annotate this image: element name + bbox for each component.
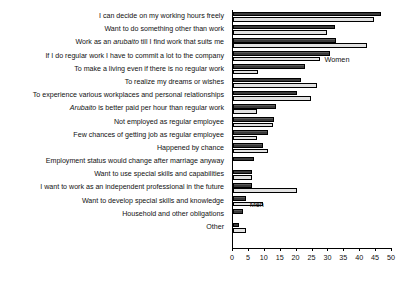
series-annotation-women: Women bbox=[324, 55, 349, 64]
bar-men bbox=[233, 143, 263, 148]
category-label: Arubaito is better paid per hour than re… bbox=[0, 102, 228, 115]
x-tick bbox=[248, 248, 249, 251]
bar-women bbox=[233, 123, 273, 128]
category-label: Other bbox=[0, 221, 228, 234]
category-label: Employment status would change after mar… bbox=[0, 155, 228, 168]
x-tick-label: 30 bbox=[323, 253, 331, 262]
bar-women bbox=[233, 96, 311, 101]
bar-group bbox=[232, 76, 391, 89]
foreign-term: Arubaito bbox=[70, 104, 96, 112]
bar-men bbox=[233, 117, 274, 122]
bar-group bbox=[232, 10, 391, 23]
bar-men bbox=[233, 157, 254, 162]
bar-group bbox=[232, 142, 391, 155]
x-tick bbox=[359, 248, 360, 251]
bar-men bbox=[233, 130, 268, 135]
x-tick bbox=[312, 248, 313, 251]
bar-group bbox=[232, 102, 391, 115]
x-tick-label: 45 bbox=[371, 253, 379, 262]
category-label: Want to use special skills and capabilit… bbox=[0, 168, 228, 181]
x-tick bbox=[343, 248, 344, 251]
category-label: Household and other obligations bbox=[0, 208, 228, 221]
bar-women bbox=[233, 70, 258, 75]
bar-men bbox=[233, 183, 252, 188]
bar-women bbox=[233, 136, 257, 141]
bar-group bbox=[232, 23, 391, 36]
x-tick-label: 15 bbox=[276, 253, 284, 262]
bar-women bbox=[233, 228, 246, 233]
bar-women bbox=[233, 149, 268, 154]
x-tick-label: 25 bbox=[308, 253, 316, 262]
x-tick-label: 10 bbox=[260, 253, 268, 262]
bar-men bbox=[233, 196, 246, 201]
category-label: Work as an arubaito till I find work tha… bbox=[0, 36, 228, 49]
bar-men bbox=[233, 170, 252, 175]
bar-group bbox=[232, 221, 391, 234]
x-tick bbox=[264, 248, 265, 251]
category-label: Not employed as regular employee bbox=[0, 116, 228, 129]
bar-women bbox=[233, 188, 297, 193]
category-label: Few chances of getting job as regular em… bbox=[0, 129, 228, 142]
bar-group bbox=[232, 89, 391, 102]
bar-women bbox=[233, 83, 317, 88]
x-tick bbox=[375, 248, 376, 251]
category-label: Want to do something other than work bbox=[0, 23, 228, 36]
x-tick-label: 40 bbox=[355, 253, 363, 262]
bar-group bbox=[232, 181, 391, 194]
bar-group bbox=[232, 116, 391, 129]
bar-men bbox=[233, 209, 243, 214]
category-label: To make a living even if there is no reg… bbox=[0, 63, 228, 76]
category-label: Happened by chance bbox=[0, 142, 228, 155]
bar-women bbox=[233, 43, 367, 48]
bar-group bbox=[232, 36, 391, 49]
x-tick-label: 20 bbox=[292, 253, 300, 262]
x-tick bbox=[232, 248, 233, 251]
bar-women bbox=[233, 57, 320, 62]
bar-women bbox=[233, 109, 257, 114]
x-tick-label: 50 bbox=[387, 253, 395, 262]
bar-women bbox=[233, 175, 252, 180]
bar-men bbox=[233, 12, 381, 17]
bar-chart: I can decide on my working hours freelyW… bbox=[0, 0, 403, 287]
bar-men bbox=[233, 104, 276, 109]
bar-group bbox=[232, 50, 391, 63]
x-tick-label: 0 bbox=[230, 253, 234, 262]
bar-men bbox=[233, 223, 239, 228]
x-tick-label: 5 bbox=[246, 253, 250, 262]
category-label-list: I can decide on my working hours freelyW… bbox=[0, 10, 228, 234]
category-label: I can decide on my working hours freely bbox=[0, 10, 228, 23]
bar-group bbox=[232, 155, 391, 168]
bar-group bbox=[232, 168, 391, 181]
category-label: If I do regular work I have to commit a … bbox=[0, 50, 228, 63]
x-tick-label: 35 bbox=[339, 253, 347, 262]
x-tick bbox=[280, 248, 281, 251]
foreign-term: arubaito bbox=[113, 38, 139, 46]
bar-men bbox=[233, 78, 301, 83]
bar-men bbox=[233, 38, 336, 43]
bar-men bbox=[233, 25, 335, 30]
x-tick bbox=[327, 248, 328, 251]
bar-men bbox=[233, 51, 330, 56]
bar-group bbox=[232, 208, 391, 221]
category-label: Want to develop special skills and knowl… bbox=[0, 195, 228, 208]
category-label: I want to work as an independent profess… bbox=[0, 181, 228, 194]
x-tick bbox=[391, 248, 392, 251]
category-label: To experience various workplaces and per… bbox=[0, 89, 228, 102]
bar-women bbox=[233, 17, 374, 22]
bar-men bbox=[233, 64, 305, 69]
bar-women bbox=[233, 30, 327, 35]
bar-group bbox=[232, 63, 391, 76]
bar-group bbox=[232, 129, 391, 142]
x-tick bbox=[296, 248, 297, 251]
plot-area bbox=[232, 10, 391, 248]
bar-men bbox=[233, 91, 297, 96]
category-label: To realize my dreams or wishes bbox=[0, 76, 228, 89]
series-annotation-men: Men bbox=[250, 200, 264, 209]
